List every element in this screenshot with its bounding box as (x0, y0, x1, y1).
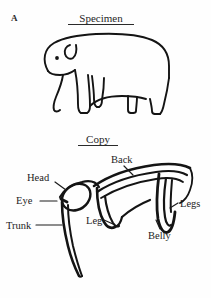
annotation-label-back: Back (111, 155, 133, 166)
specimen-front-leg-far-back (99, 78, 104, 107)
copy-hind-leg-outer (157, 174, 175, 232)
copy-hind-leg-fill (171, 180, 172, 212)
specimen-hind-leg-far-back (133, 97, 137, 113)
copy-belly-stroke (122, 200, 150, 217)
specimen-title-underline (68, 24, 134, 25)
leader-back (124, 166, 133, 175)
panel-letter: A (11, 13, 18, 23)
specimen-elephant-drawing (45, 34, 169, 114)
copy-title-underline (78, 145, 118, 146)
specimen-front-leg-near (75, 70, 81, 113)
figure-panel: A Specimen Copy (0, 0, 211, 298)
annotation-leader-lines (36, 166, 178, 229)
copy-section-title: Copy (78, 133, 118, 146)
annotation-label-leg: Leg (86, 216, 102, 227)
annotation-label-trunk: Trunk (6, 221, 31, 232)
leader-legs (170, 203, 178, 208)
specimen-eye (55, 56, 59, 60)
specimen-section-title: Specimen (68, 12, 134, 25)
annotation-label-legs: Legs (180, 199, 200, 210)
copy-trunk-outer (62, 202, 79, 276)
copy-eye-mark (61, 199, 67, 202)
specimen-trunk (54, 75, 63, 112)
leader-leg (104, 220, 113, 224)
copy-head-top-stroke (60, 181, 99, 197)
copy-trunk-inner (68, 205, 82, 276)
specimen-ear (65, 45, 77, 59)
specimen-hind-leg-far (128, 96, 131, 113)
specimen-belly (90, 96, 146, 106)
specimen-title-text: Specimen (79, 12, 122, 24)
specimen-rump-to-leg (160, 78, 169, 114)
copy-front-leg-inner (105, 196, 119, 226)
leader-head (55, 182, 66, 190)
specimen-front-leg-far (92, 76, 97, 107)
copy-back-upper-stroke (94, 164, 190, 186)
copy-hind-leg-inner (164, 178, 171, 226)
specimen-hind-leg-near (150, 99, 155, 114)
specimen-body-outline (45, 34, 169, 78)
copy-head-loop (62, 184, 90, 211)
figure-artwork (0, 0, 211, 298)
specimen-forehead-to-trunk (48, 70, 75, 75)
copy-elephant-drawing (60, 164, 192, 277)
annotation-label-belly: Belly (148, 231, 171, 242)
leader-belly (156, 220, 160, 229)
specimen-front-leg-near-back (87, 75, 90, 113)
copy-trunk-tip (79, 276, 82, 277)
copy-title-text: Copy (86, 133, 110, 145)
copy-front-leg-hook (115, 217, 122, 227)
copy-back-third-stroke (101, 178, 183, 198)
annotation-label-head: Head (27, 173, 49, 184)
copy-back-lower-stroke (97, 171, 187, 192)
annotation-label-eye: Eye (16, 196, 32, 207)
